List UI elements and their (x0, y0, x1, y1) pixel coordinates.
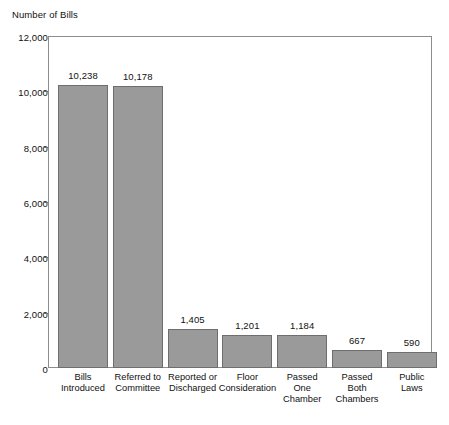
bar-value-label: 10,178 (113, 71, 163, 82)
bar-group: 1,184 (277, 36, 327, 368)
bar (113, 86, 163, 368)
bar-value-label: 1,201 (222, 320, 272, 331)
bar-value-label: 1,184 (277, 320, 327, 331)
x-axis-category-label: PublicLaws (380, 372, 444, 394)
bar-value-label: 667 (332, 335, 382, 346)
bar (332, 350, 382, 368)
x-axis-category-label-line: Laws (380, 383, 444, 394)
bar (277, 335, 327, 368)
bar (387, 352, 437, 368)
bar (222, 335, 272, 368)
bar-chart-figure: Number of Bills 12,00010,0008,0006,0004,… (0, 0, 449, 425)
bar (58, 85, 108, 368)
bar-group: 10,178 (113, 36, 163, 368)
bar-group: 10,238 (58, 36, 108, 368)
bar (168, 329, 218, 368)
bar-value-label: 10,238 (58, 70, 108, 81)
bar-value-label: 1,405 (168, 314, 218, 325)
bar-group: 1,405 (168, 36, 218, 368)
bar-group: 667 (332, 36, 382, 368)
x-axis-category-labels: BillsIntroducedReferred toCommitteeRepor… (48, 372, 432, 420)
bar-group: 1,201 (222, 36, 272, 368)
bars-layer: 10,23810,1781,4051,2011,184667590 (48, 36, 432, 368)
bar-value-label: 590 (387, 337, 437, 348)
x-axis-category-label-line: Chambers (325, 394, 389, 405)
x-axis-category-label-line: Public (380, 372, 444, 383)
bar-group: 590 (387, 36, 437, 368)
